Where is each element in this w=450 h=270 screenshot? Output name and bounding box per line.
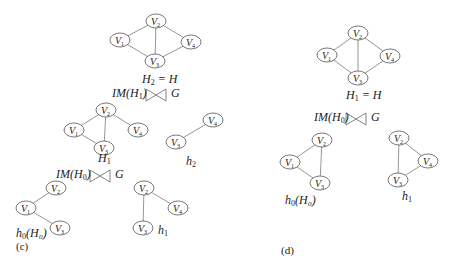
- node-v2: V2: [96, 103, 116, 117]
- node-v3: V3: [388, 173, 408, 187]
- bowtie-join-icon: [90, 170, 110, 182]
- bowtie-join-icon: [346, 113, 366, 125]
- node-v3: V3: [310, 176, 330, 190]
- graph-label: H2 = H: [142, 72, 177, 87]
- node-v3: V3: [348, 71, 368, 85]
- panel-letter-c: (c): [16, 240, 28, 252]
- node-v1: V1: [317, 48, 337, 62]
- node-v3: V3: [166, 135, 186, 149]
- node-v3: V3: [145, 54, 165, 68]
- node-v1: V1: [280, 155, 300, 169]
- node-v2: V2: [146, 14, 166, 28]
- target-graph-label: G: [371, 110, 380, 125]
- graph-h1: V1V2V3V4: [64, 103, 148, 155]
- graph-h0h0: V1V2V3: [280, 133, 332, 190]
- graph-label: H1: [98, 151, 111, 166]
- node-v1: V1: [64, 123, 84, 137]
- graph-h2: V3V4: [166, 113, 223, 149]
- node-v2: V2: [46, 181, 66, 195]
- im-relation-label: IM(H0): [56, 167, 91, 182]
- im-relation-label: IM(H1): [112, 86, 147, 101]
- graph-label: H1 = H: [346, 88, 381, 103]
- node-v4: V4: [203, 113, 223, 127]
- graph-label: h2: [186, 154, 196, 169]
- panel-d: V1V2V3V4V1V2V3V2V3V4: [280, 26, 438, 190]
- node-v4: V4: [380, 49, 400, 63]
- node-v4: V4: [418, 154, 438, 168]
- figure-canvas: V1V2V3V4V1V2V3V4V3V4V1V2V3V2V3V4V1V2V3V4…: [0, 0, 450, 270]
- panel-c: V1V2V3V4V1V2V3V4V3V4V1V2V3V2V3V4: [16, 14, 223, 235]
- node-v4: V4: [168, 201, 188, 215]
- panel-letter-d: (d): [281, 244, 294, 256]
- node-v2: V2: [348, 26, 368, 40]
- node-v2: V2: [389, 131, 409, 145]
- node-v4: V4: [128, 123, 148, 137]
- graph-h1: V1V2V3V4: [317, 26, 400, 85]
- node-v2: V2: [134, 181, 154, 195]
- node-v3: V3: [133, 221, 153, 235]
- node-v2: V2: [312, 133, 332, 147]
- node-v3: V3: [50, 221, 70, 235]
- im-relation-label: IM(H0): [314, 110, 349, 125]
- graph-h1: V2V3V4: [388, 131, 438, 187]
- graph-h2: V1V2V3V4: [110, 14, 201, 68]
- graph-label: h0(H₀): [285, 193, 316, 208]
- graph-label: h1: [402, 189, 412, 204]
- node-v1: V1: [16, 201, 36, 215]
- node-v4: V4: [181, 35, 201, 49]
- target-graph-label: G: [115, 167, 124, 182]
- node-v1: V1: [110, 33, 130, 47]
- bowtie-join-icon: [146, 89, 166, 101]
- graph-label: h0(H₀): [16, 226, 47, 241]
- target-graph-label: G: [171, 86, 180, 101]
- graph-label: h1: [158, 223, 168, 238]
